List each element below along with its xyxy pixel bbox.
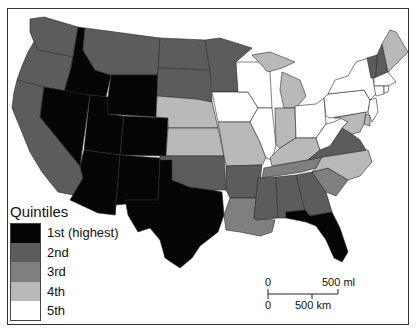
state-MT [83,28,160,75]
legend-swatch [10,301,41,321]
legend-label: 2nd [47,245,69,260]
legend-swatch [10,243,41,263]
legend-swatch [10,223,41,243]
legend-label: 1st (highest) [47,225,119,240]
legend-swatch [10,282,41,302]
scale-km-label: 500 km [295,299,331,311]
legend-label: 3rd [47,264,66,279]
legend-item-5th: 5th [10,301,119,321]
legend-item-2nd: 2nd [10,243,119,263]
legend-item-4th: 4th [10,282,119,302]
state-CO [120,116,168,156]
state-RI [384,86,389,93]
legend-item-1st: 1st (highest) [10,223,119,243]
legend-label: 5th [47,303,65,318]
legend-label: 4th [47,284,65,299]
state-ND [158,38,210,70]
state-KS [166,128,224,156]
legend-swatch [10,262,41,282]
scale-km-zero: 0 [265,299,271,311]
state-FL [286,210,348,262]
scale-bar [268,289,338,299]
legend-item-3rd: 3rd [10,262,119,282]
scale-miles-zero: 0 [265,276,271,288]
state-MS [254,177,278,220]
legend: Quintiles 1st (highest) 2nd 3rd 4th 5th [10,203,119,321]
state-CT [374,86,384,96]
state-WY [108,75,158,117]
legend-title: Quintiles [10,203,119,220]
scale-miles-label: 500 ml [322,276,355,288]
